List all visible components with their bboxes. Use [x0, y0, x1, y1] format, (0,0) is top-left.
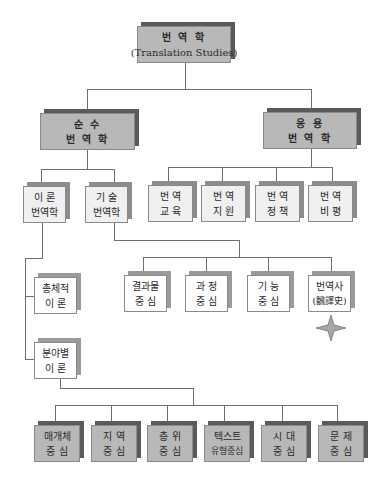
node-line1: 분야별	[42, 346, 69, 361]
node-line2: 중 심	[135, 294, 156, 309]
node-rank-restricted: 층 위 중 심	[147, 425, 193, 462]
node-line2: 지 원	[213, 204, 234, 219]
connector	[114, 240, 240, 241]
node-line1: 텍스트	[214, 429, 241, 444]
connector	[111, 405, 112, 425]
connector	[42, 223, 43, 258]
node-line2: 번역학	[31, 205, 58, 220]
node-medium-restricted: 매개체 중 심	[34, 425, 80, 462]
node-function-oriented: 기 능 중 심	[247, 275, 290, 312]
node-line1: 매개체	[44, 429, 71, 444]
four-point-star-icon	[316, 315, 346, 341]
connector	[55, 405, 338, 406]
node-line2: 중 심	[159, 444, 180, 459]
connector	[25, 296, 34, 297]
node-line1: 결과물	[132, 279, 159, 294]
node-line1: 총체적	[42, 281, 69, 296]
node-line2: 이 론	[45, 296, 66, 311]
node-line2: 번역학	[93, 205, 120, 220]
node-line1: 층 위	[159, 429, 180, 444]
connector	[114, 223, 115, 240]
node-area-restricted: 지 역 중 심	[91, 425, 137, 462]
node-line2: 중 심	[330, 444, 351, 459]
node-descriptive: 기 술 번역학	[85, 186, 128, 223]
connector	[87, 89, 88, 113]
node-line1: 지 역	[103, 429, 124, 444]
node-line2: 번 역 학	[288, 131, 332, 146]
connector	[268, 257, 269, 275]
node-line1: 순 수	[74, 117, 101, 132]
node-line1: 이 론	[34, 190, 55, 205]
connector	[55, 405, 56, 425]
node-line1: 번 역	[160, 189, 181, 204]
connector	[193, 388, 194, 405]
node-translation-criticism: 번 역 비 평	[308, 185, 353, 222]
connector	[332, 167, 333, 185]
node-pure-translation-studies: 순 수 번 역 학	[40, 113, 135, 150]
node-translator-training: 번 역 교 육	[148, 185, 193, 222]
connector	[25, 258, 43, 259]
connector	[282, 405, 283, 425]
node-time-restricted: 시 대 중 심	[261, 425, 307, 462]
connector	[239, 240, 240, 257]
connector	[60, 388, 194, 389]
node-line2: 중 심	[46, 444, 67, 459]
connector	[276, 167, 277, 185]
connector	[25, 359, 34, 360]
connector	[41, 169, 42, 186]
connector	[114, 169, 115, 186]
connector	[206, 257, 207, 275]
node-line2: 정 책	[267, 204, 288, 219]
node-partial-theory: 분야별 이 론	[34, 342, 77, 379]
node-line1: 번역사	[316, 279, 343, 294]
node-line1: 번 역	[267, 189, 288, 204]
connector	[41, 169, 115, 170]
connector	[60, 378, 61, 388]
node-translation-studies: 번 역 학 (Translation Studies)	[137, 26, 231, 63]
node-title: 번 역 학	[162, 30, 206, 45]
node-product-oriented: 결과물 중 심	[124, 275, 167, 312]
node-line2: 중 심	[258, 294, 279, 309]
node-translation-aids: 번 역 지 원	[201, 185, 246, 222]
connector	[222, 167, 223, 185]
connector	[168, 167, 169, 185]
node-line1: 과 정	[196, 279, 217, 294]
node-line1: 기 능	[258, 279, 279, 294]
connector	[311, 148, 312, 167]
connector	[87, 150, 88, 169]
node-translation-policy: 번 역 정 책	[255, 185, 300, 222]
node-subtitle: (Translation Studies)	[131, 45, 238, 60]
connector	[25, 258, 26, 360]
node-line2: 중 심	[273, 444, 294, 459]
connector	[185, 62, 186, 89]
node-process-oriented: 과 정 중 심	[185, 275, 228, 312]
node-line1: 번 역	[320, 189, 341, 204]
node-general-theory: 총체적 이 론	[34, 277, 77, 314]
node-line1: 기 술	[96, 190, 117, 205]
node-line2: 이 론	[45, 361, 66, 376]
node-line2: (飜譯史)	[312, 294, 346, 309]
node-line1: 문 제	[330, 429, 351, 444]
node-applied-translation-studies: 응 용 번 역 학	[263, 112, 357, 149]
connector	[167, 405, 168, 425]
node-line1: 응 용	[296, 116, 323, 131]
node-translation-history: 번역사 (飜譯史)	[308, 275, 351, 312]
connector	[224, 405, 225, 425]
node-text-type-restricted: 텍스트 유형중심	[204, 425, 250, 462]
connector	[87, 89, 312, 90]
connector	[311, 89, 312, 112]
connector	[331, 257, 332, 275]
node-line2: 유형중심	[211, 444, 243, 459]
node-theoretical: 이 론 번역학	[23, 186, 66, 223]
connector	[337, 405, 338, 425]
node-line2: 번 역 학	[66, 132, 110, 147]
node-line1: 시 대	[273, 429, 294, 444]
connector	[168, 167, 333, 168]
node-line2: 중 심	[196, 294, 217, 309]
node-line2: 중 심	[103, 444, 124, 459]
node-line2: 비 평	[320, 204, 341, 219]
node-line2: 교 육	[160, 204, 181, 219]
connector	[143, 257, 144, 275]
connector	[143, 257, 332, 258]
node-problem-restricted: 문 제 중 심	[318, 425, 364, 462]
